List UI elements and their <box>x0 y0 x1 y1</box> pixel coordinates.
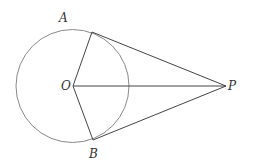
segment-OA <box>73 32 92 86</box>
label-P: P <box>227 79 237 93</box>
tangent-PA <box>92 32 226 86</box>
label-B: B <box>88 147 98 161</box>
label-O: O <box>61 79 71 93</box>
label-A: A <box>58 11 68 25</box>
segment-OB <box>73 86 93 140</box>
tangent-PB <box>93 86 226 140</box>
geometry-diagram: A B O P <box>0 0 253 168</box>
